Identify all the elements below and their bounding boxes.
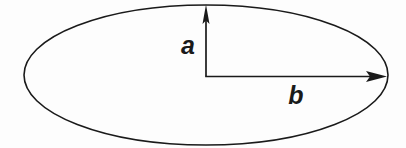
semi-minor-axis-arrow <box>203 5 210 77</box>
semi-minor-axis-label: a <box>181 31 195 59</box>
ellipse-diagram: a b <box>0 0 406 148</box>
semi-major-axis-label: b <box>288 81 303 109</box>
diagram-canvas: a b <box>0 0 406 148</box>
